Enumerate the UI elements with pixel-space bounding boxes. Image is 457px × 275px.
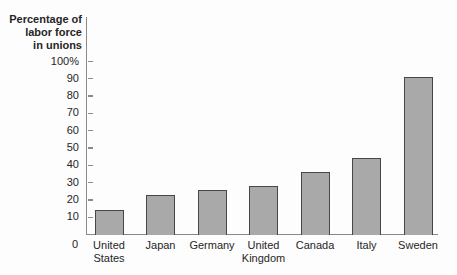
y-tick-mark-70: [88, 113, 94, 114]
x-category-label-italy: Italy: [356, 239, 376, 252]
y-axis-title: Percentage of labor force in unions: [0, 13, 82, 52]
x-category-label-united-states: United States: [93, 239, 125, 265]
bar-canada: [301, 172, 330, 234]
y-tick-mark-20: [88, 199, 94, 200]
y-tick-mark-100: [88, 61, 94, 62]
y-tick-label-50: 50: [0, 141, 79, 154]
y-tick-mark-50: [88, 147, 94, 148]
y-tick-label-70: 70: [0, 106, 79, 119]
y-tick-label-100: 100%: [0, 55, 79, 68]
y-axis-line: [86, 17, 88, 235]
y-tick-label-10: 10: [0, 210, 79, 223]
y-tick-label-30: 30: [0, 176, 79, 189]
y-tick-label-20: 20: [0, 193, 79, 206]
x-category-label-sweden: Sweden: [398, 239, 438, 252]
bar-germany: [198, 190, 227, 235]
y-tick-mark-30: [88, 182, 94, 183]
union-membership-bar-chart: Percentage of labor force in unions 100%…: [0, 0, 457, 275]
bar-italy: [352, 158, 381, 234]
y-tick-label-90: 90: [0, 72, 79, 85]
y-axis-title-line-1: Percentage of: [0, 13, 82, 26]
y-tick-label-80: 80: [0, 89, 79, 102]
y-tick-mark-60: [88, 130, 94, 131]
y-tick-label-40: 40: [0, 158, 79, 171]
y-tick-label-60: 60: [0, 124, 79, 137]
origin-label: 0: [0, 238, 78, 251]
y-tick-mark-90: [88, 78, 94, 79]
bar-japan: [146, 195, 175, 235]
x-category-label-united-kingdom: United Kingdom: [242, 239, 285, 265]
y-tick-mark-80: [88, 95, 94, 96]
x-category-label-canada: Canada: [296, 239, 335, 252]
y-axis-title-line-3: in unions: [0, 39, 82, 52]
x-category-label-germany: Germany: [189, 239, 234, 252]
y-tick-mark-40: [88, 165, 94, 166]
x-category-label-japan: Japan: [146, 239, 176, 252]
bar-united-states: [95, 210, 124, 234]
y-axis-title-line-2: labor force: [0, 26, 82, 39]
y-tick-mark-10: [88, 217, 94, 218]
bar-sweden: [404, 77, 433, 234]
bar-united-kingdom: [249, 186, 278, 234]
